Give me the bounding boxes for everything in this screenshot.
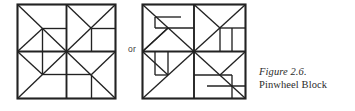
figure-caption-title: Pinwheel Block (259, 79, 353, 92)
pinwheel-block-variant-b (141, 3, 247, 100)
figure-caption: Figure 2.6. Pinwheel Block (259, 66, 353, 91)
or-connector-label: or (122, 44, 142, 54)
figure-container: or (0, 0, 355, 111)
pinwheel-block-variant-a (16, 3, 117, 100)
figure-caption-number: Figure 2.6. (259, 66, 353, 79)
